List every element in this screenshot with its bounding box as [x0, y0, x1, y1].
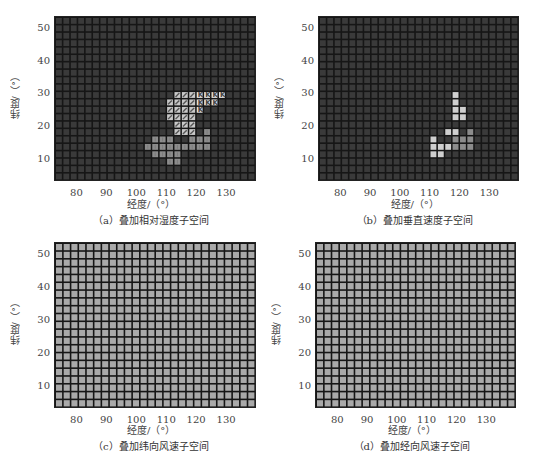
- panel-caption: （d）叠加经向风速子空间: [354, 438, 470, 453]
- y-tick-label: 40: [291, 281, 311, 292]
- y-tick-label: 40: [30, 281, 50, 292]
- x-tick-label: 90: [94, 414, 118, 425]
- heatmap-plot-b: [318, 16, 519, 181]
- x-tick-label: 80: [64, 414, 88, 425]
- x-tick-label: 80: [325, 414, 349, 425]
- x-tick-label: 130: [214, 414, 238, 425]
- x-tick-label: 90: [358, 187, 382, 198]
- y-tick-label: 50: [30, 248, 50, 259]
- y-tick-label: 50: [291, 248, 311, 259]
- x-tick-label: 120: [444, 414, 468, 425]
- y-tick-label: 40: [294, 55, 314, 66]
- y-tick-label: 20: [30, 347, 50, 358]
- svg-text:K: K: [198, 106, 204, 114]
- x-tick-label: 130: [474, 414, 498, 425]
- y-tick-label: 30: [291, 314, 311, 325]
- svg-text:K: K: [220, 91, 226, 99]
- x-axis-label: 经度/（°）: [388, 422, 436, 437]
- heatmap-plot-c: [54, 242, 256, 408]
- panel-b: 50403020108090100110120130纬度/（°）经度/（°）（b…: [264, 0, 532, 236]
- y-axis-label: 纬度/（°）: [8, 297, 23, 345]
- x-tick-label: 120: [184, 414, 208, 425]
- y-tick-label: 20: [291, 347, 311, 358]
- y-axis-label: 纬度/（°）: [8, 71, 23, 119]
- y-tick-label: 10: [30, 153, 50, 164]
- x-tick-label: 130: [477, 187, 501, 198]
- y-tick-label: 30: [294, 87, 314, 98]
- x-tick-label: 90: [355, 414, 379, 425]
- panel-c: 50403020108090100110120130纬度/（°）经度/（°）（c…: [0, 236, 268, 472]
- y-axis-label: 纬度/（°）: [269, 297, 284, 345]
- panel-caption: （a）叠加相对湿度子空间: [93, 212, 209, 227]
- svg-text:K: K: [205, 99, 211, 107]
- x-tick-label: 80: [328, 187, 352, 198]
- x-axis-label: 经度/（°）: [391, 196, 439, 211]
- y-tick-label: 30: [30, 314, 50, 325]
- x-axis-label: 经度/（°）: [127, 196, 175, 211]
- panel-d: 50403020108090100110120130纬度/（°）经度/（°）（d…: [264, 236, 532, 472]
- y-tick-label: 10: [294, 153, 314, 164]
- y-tick-label: 30: [30, 87, 50, 98]
- heatmap-plot-a: KKKKKKKK: [54, 16, 256, 181]
- x-tick-label: 90: [94, 187, 118, 198]
- y-tick-label: 20: [294, 120, 314, 131]
- y-tick-label: 20: [30, 120, 50, 131]
- y-tick-label: 10: [291, 380, 311, 391]
- svg-text:K: K: [213, 99, 219, 107]
- y-tick-label: 50: [30, 22, 50, 33]
- x-tick-label: 80: [64, 187, 88, 198]
- panel-caption: （c）叠加纬向风速子空间: [93, 438, 209, 453]
- y-tick-label: 40: [30, 55, 50, 66]
- x-tick-label: 120: [184, 187, 208, 198]
- panel-caption: （b）叠加垂直速度子空间: [357, 212, 473, 227]
- heatmap-plot-d: [315, 242, 516, 408]
- x-tick-label: 130: [214, 187, 238, 198]
- x-axis-label: 经度/（°）: [127, 422, 175, 437]
- y-axis-label: 纬度/（°）: [272, 71, 287, 119]
- y-tick-label: 50: [294, 22, 314, 33]
- x-tick-label: 120: [447, 187, 471, 198]
- y-tick-label: 10: [30, 380, 50, 391]
- panel-a: KKKKKKKK 50403020108090100110120130纬度/（°…: [0, 0, 268, 236]
